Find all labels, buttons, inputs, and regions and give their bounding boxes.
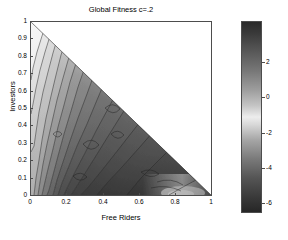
xticklabel-0: 0	[18, 198, 42, 205]
xtick-0.2	[66, 193, 67, 196]
xtick-0.6	[139, 193, 140, 196]
cbticklabel-2: 2	[266, 58, 270, 65]
cbtick--2	[262, 133, 265, 134]
plot-area	[30, 21, 212, 196]
contour-plot-svg	[31, 22, 211, 195]
y-axis-label: Investors	[8, 67, 17, 127]
yticklabel-0: 0	[5, 191, 27, 198]
xticklabel-0.6: 0.6	[127, 198, 151, 205]
yticklabel-0.8: 0.8	[5, 52, 27, 59]
cbticklabel-0: 0	[266, 93, 270, 100]
xticklabel-0.4: 0.4	[91, 198, 115, 205]
ytick-0.4	[30, 125, 33, 126]
xtick-0.4	[103, 193, 104, 196]
figure-canvas: Global Fitness c=.2	[0, 0, 288, 240]
ytick-0.7	[30, 73, 33, 74]
ytick-0.2	[30, 160, 33, 161]
x-axis-label: Free Riders	[30, 213, 212, 222]
ytick-0.1	[30, 178, 33, 179]
yticklabel-1: 1	[5, 17, 27, 24]
xtick-0.8	[175, 193, 176, 196]
yticklabel-0.2: 0.2	[5, 156, 27, 163]
ytick-1	[30, 21, 33, 22]
ytick-0.9	[30, 38, 33, 39]
ytick-0.5	[30, 108, 33, 109]
chart-title: Global Fitness c=.2	[30, 5, 212, 15]
xticklabel-0.2: 0.2	[54, 198, 78, 205]
ytick-0.8	[30, 56, 33, 57]
ytick-0.6	[30, 91, 33, 92]
colorbar-gradient-svg	[242, 22, 261, 212]
yticklabel-0.1: 0.1	[5, 174, 27, 181]
cbticklabel--4: -4	[266, 164, 272, 171]
cbtick-0	[262, 97, 265, 98]
ytick-0	[30, 195, 33, 196]
yticklabel-0.3: 0.3	[5, 139, 27, 146]
colorbar	[241, 21, 262, 213]
cbtick--4	[262, 168, 265, 169]
cbtick-2	[262, 62, 265, 63]
xticklabel-1: 1	[199, 198, 223, 205]
xticklabel-0.8: 0.8	[163, 198, 187, 205]
cbtick--6	[262, 203, 265, 204]
cbticklabel--6: -6	[266, 199, 272, 206]
ytick-0.3	[30, 143, 33, 144]
yticklabel-0.9: 0.9	[5, 34, 27, 41]
cbticklabel--2: -2	[266, 129, 272, 136]
xtick-1	[211, 193, 212, 196]
